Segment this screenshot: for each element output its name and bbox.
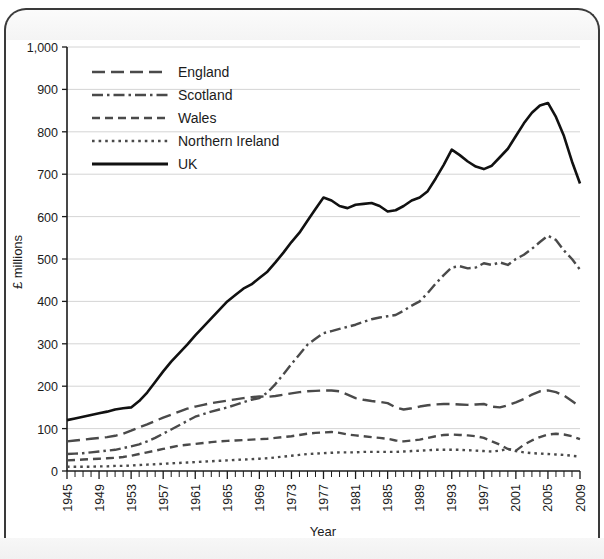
x-tick-label: 1961 [189, 484, 203, 512]
y-axis-tick-labels: 01002003004005006007008009001,000 [27, 41, 58, 479]
chart-page: 01002003004005006007008009001,000 194519… [0, 0, 604, 559]
y-tick-label: 900 [37, 83, 58, 97]
x-tick-label: 1973 [285, 484, 299, 512]
y-tick-label: 400 [37, 295, 58, 309]
x-tick-label: 1977 [317, 484, 331, 512]
x-axis-title: Year [310, 524, 337, 539]
chart-legend: EnglandScotlandWalesNorthern IrelandUK [92, 64, 279, 172]
x-axis-ticks [67, 471, 580, 479]
x-tick-label: 1993 [445, 484, 459, 512]
series-line-wales [67, 432, 580, 460]
legend-label-wales: Wales [178, 110, 216, 126]
x-tick-label: 1969 [253, 484, 267, 512]
y-tick-label: 200 [37, 380, 58, 394]
x-tick-label: 1989 [413, 484, 427, 512]
x-tick-label: 1981 [349, 484, 363, 512]
x-tick-label: 2005 [541, 484, 555, 512]
series-line-northern-ireland [67, 449, 580, 467]
y-tick-label: 300 [37, 338, 58, 352]
legend-label-scotland: Scotland [178, 87, 232, 103]
y-tick-label: 700 [37, 168, 58, 182]
series-line-uk [67, 103, 580, 420]
legend-label-uk: UK [178, 156, 198, 172]
y-tick-label: 1,000 [27, 41, 58, 55]
x-tick-label: 2001 [509, 484, 523, 512]
series-line-scotland [67, 236, 580, 454]
legend-label-england: England [178, 64, 229, 80]
x-axis-tick-labels: 1945194919531957196119651969197319771981… [61, 484, 588, 512]
x-tick-label: 1957 [157, 484, 171, 512]
x-tick-label: 1953 [125, 484, 139, 512]
x-tick-label: 1997 [477, 484, 491, 512]
x-tick-label: 1949 [93, 484, 107, 512]
y-axis-title: £ millions [10, 234, 25, 289]
x-tick-label: 1945 [61, 484, 75, 512]
y-tick-label: 800 [37, 126, 58, 140]
legend-label-northern-ireland: Northern Ireland [178, 133, 279, 149]
y-tick-label: 0 [51, 465, 58, 479]
y-tick-label: 500 [37, 253, 58, 267]
series-line-england [67, 390, 580, 441]
y-tick-label: 100 [37, 423, 58, 437]
data-series-group [67, 103, 580, 467]
x-tick-label: 1965 [221, 484, 235, 512]
x-tick-label: 2009 [574, 484, 588, 512]
y-tick-label: 600 [37, 211, 58, 225]
x-tick-label: 1985 [381, 484, 395, 512]
line-chart: 01002003004005006007008009001,000 194519… [0, 0, 604, 559]
